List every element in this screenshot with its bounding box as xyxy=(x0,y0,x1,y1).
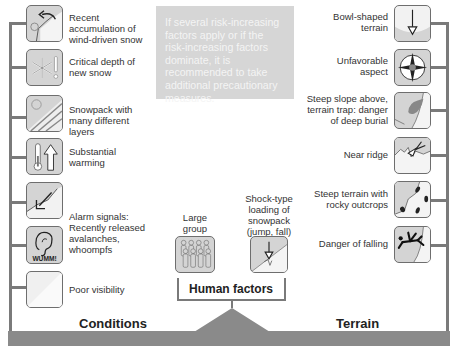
terrain-branch xyxy=(431,22,449,25)
terrain-branch xyxy=(431,66,449,69)
terrain-branch xyxy=(431,154,449,157)
human-factor-label: Large group xyxy=(178,212,212,234)
info-box: If several risk-increasing factors apply… xyxy=(156,6,294,99)
terrain-title: Terrain xyxy=(336,316,379,331)
thermometer-rising-icon xyxy=(26,138,63,175)
wumm-badge: WUMM! xyxy=(32,255,56,262)
condition-label: Poor visibility xyxy=(69,284,149,295)
conditions-branch xyxy=(9,66,27,69)
terrain-label: Near ridge xyxy=(320,149,388,160)
condition-label: Substantial warming xyxy=(69,146,149,168)
terrain-label: Steep terrain with rocky outcrops xyxy=(300,188,388,210)
human-factors-title: Human factors xyxy=(180,282,282,296)
terrain-label: Bowl-shaped terrain xyxy=(320,11,388,33)
ridge-icon xyxy=(394,137,431,174)
conditions-title: Conditions xyxy=(79,316,147,331)
wind-drifted-snow-icon xyxy=(26,5,63,42)
rocky-outcrops-icon xyxy=(394,181,431,218)
conditions-branch xyxy=(9,244,27,247)
human-factor-label: Shock-type loading of snowpack (jump, fa… xyxy=(243,193,295,237)
condition-label: Recent accumulation of wind-driven snow xyxy=(69,12,149,45)
terrain-label: Danger of falling xyxy=(300,238,388,249)
bottom-bar xyxy=(8,331,450,346)
human-factors-bracket-right xyxy=(284,278,286,300)
terrain-label: Unfavorable aspect xyxy=(320,55,388,77)
avalanche-release-icon xyxy=(26,182,63,219)
terrain-label: Steep slope above, terrain trap: danger … xyxy=(300,93,388,126)
conditions-branch xyxy=(9,286,27,289)
terrain-branch xyxy=(431,199,449,202)
terrain-trap-icon xyxy=(394,92,431,129)
condition-label: Critical depth of new snow xyxy=(69,56,149,78)
human-factors-bracket-left xyxy=(177,278,179,300)
snow-layers-icon xyxy=(26,95,63,132)
poor-visibility-icon xyxy=(26,271,63,308)
conditions-branch xyxy=(9,116,27,119)
human-factors-stem xyxy=(231,300,233,308)
compass-icon xyxy=(394,49,431,86)
terrain-branch xyxy=(431,109,449,112)
ear-wumm-icon: WUMM! xyxy=(26,226,63,264)
group-icon xyxy=(175,236,215,273)
shock-loading-icon xyxy=(250,236,288,273)
conditions-branch xyxy=(9,201,27,204)
falling-person-icon xyxy=(394,226,431,263)
conditions-branch xyxy=(9,156,27,159)
bowl-terrain-icon xyxy=(394,5,431,42)
condition-label: Snowpack with many different layers xyxy=(69,104,149,137)
terrain-branch xyxy=(431,244,449,247)
snowflake-warning-icon xyxy=(26,49,63,86)
conditions-branch xyxy=(9,22,27,25)
condition-label: Alarm signals: Recently released avalanc… xyxy=(69,211,149,255)
